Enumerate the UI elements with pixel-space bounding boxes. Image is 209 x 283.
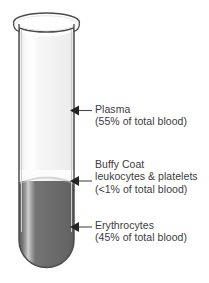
callout-erythrocytes: Erythrocytes (45% of total blood)	[95, 219, 187, 244]
callout-buffy-coat-line-3: (<1% of total blood)	[95, 183, 198, 195]
callout-erythrocytes-line-2: (45% of total blood)	[95, 231, 187, 243]
callout-plasma-line-2: (55% of total blood)	[95, 115, 187, 127]
tube-contents	[17, 24, 76, 273]
tube-rim-flare-left	[14, 24, 19, 32]
callout-plasma: Plasma (55% of total blood)	[95, 103, 187, 128]
tube-rim-flare-right	[74, 24, 79, 32]
plasma-layer	[17, 24, 76, 182]
blood-tube-diagram: Plasma (55% of total blood) Buffy Coat l…	[0, 0, 209, 283]
callout-buffy-coat: Buffy Coat leukocytes & platelets (<1% o…	[95, 158, 198, 195]
callout-buffy-coat-line-2: leukocytes & platelets	[95, 170, 198, 182]
callout-plasma-line-1: Plasma	[95, 103, 187, 115]
callout-erythrocytes-line-1: Erythrocytes	[95, 219, 187, 231]
callout-buffy-coat-line-1: Buffy Coat	[95, 158, 198, 170]
